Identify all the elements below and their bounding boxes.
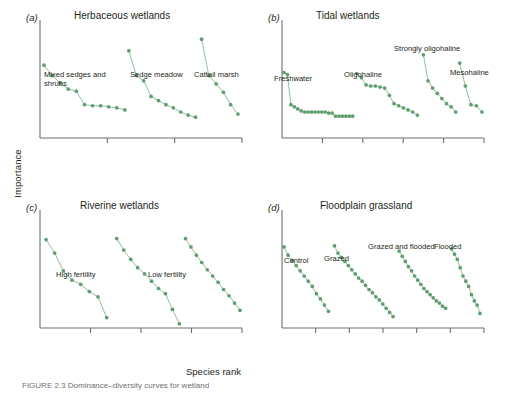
data-point bbox=[53, 251, 57, 255]
data-point bbox=[171, 106, 175, 110]
data-point bbox=[454, 110, 458, 114]
data-point bbox=[99, 104, 103, 108]
series-label: Sedge meadow bbox=[130, 70, 183, 79]
data-point bbox=[360, 279, 364, 283]
data-point bbox=[302, 274, 306, 278]
data-point bbox=[186, 113, 190, 117]
series-label: Cattail marsh bbox=[194, 70, 239, 79]
data-point bbox=[79, 282, 83, 286]
data-point bbox=[357, 276, 361, 280]
data-point bbox=[400, 254, 404, 258]
data-point bbox=[44, 238, 48, 242]
data-point bbox=[441, 304, 445, 308]
data-point bbox=[233, 301, 237, 305]
series-line bbox=[399, 251, 445, 308]
panel-tag: (b) bbox=[268, 12, 280, 23]
data-point bbox=[136, 266, 140, 270]
data-point bbox=[416, 278, 420, 282]
series-line bbox=[423, 55, 455, 112]
data-point bbox=[296, 107, 300, 111]
data-point bbox=[347, 114, 351, 118]
data-point bbox=[341, 114, 345, 118]
data-point bbox=[222, 90, 226, 94]
data-point bbox=[461, 274, 465, 278]
data-point bbox=[107, 105, 111, 109]
data-point bbox=[178, 322, 182, 326]
data-point bbox=[475, 303, 479, 307]
data-point bbox=[299, 109, 303, 113]
panel-tag: (a) bbox=[26, 12, 38, 23]
data-point bbox=[236, 112, 240, 116]
data-point bbox=[306, 110, 310, 114]
data-point bbox=[88, 290, 92, 294]
data-point bbox=[449, 105, 453, 109]
data-point bbox=[122, 248, 126, 252]
data-point bbox=[371, 291, 375, 295]
data-point bbox=[406, 108, 410, 112]
data-point bbox=[303, 110, 307, 114]
data-point bbox=[157, 287, 161, 291]
data-point bbox=[367, 288, 371, 292]
data-point bbox=[458, 266, 462, 270]
data-point bbox=[115, 106, 119, 110]
data-point bbox=[123, 108, 127, 112]
data-point bbox=[434, 299, 438, 303]
data-point bbox=[350, 268, 354, 272]
data-point bbox=[351, 114, 355, 118]
data-point bbox=[75, 89, 79, 93]
data-point bbox=[323, 303, 327, 307]
data-point bbox=[364, 284, 368, 288]
data-point bbox=[458, 61, 462, 65]
series-label: High fertility bbox=[56, 270, 96, 279]
data-point bbox=[115, 237, 119, 241]
data-point bbox=[388, 94, 392, 98]
data-point bbox=[402, 106, 406, 110]
series-label: Mixed sedges andshrubs bbox=[44, 70, 106, 88]
data-point bbox=[289, 103, 293, 107]
data-point bbox=[292, 105, 296, 109]
data-point bbox=[428, 293, 432, 297]
data-point bbox=[422, 53, 426, 57]
data-point bbox=[164, 292, 168, 296]
series-label: Low fertility bbox=[148, 270, 186, 279]
data-point bbox=[463, 84, 467, 88]
y-axis-label: Importance bbox=[12, 119, 23, 229]
series-label: Strongly oligohaline bbox=[394, 44, 460, 53]
data-series bbox=[184, 237, 242, 312]
data-point bbox=[377, 298, 381, 302]
data-point bbox=[327, 111, 331, 115]
data-point bbox=[42, 63, 46, 67]
data-point bbox=[179, 110, 183, 114]
panel-b-tidal-wetlands: (b)Tidal wetlandsFreshwaterOligohalineSt… bbox=[268, 8, 490, 160]
data-point bbox=[200, 261, 204, 265]
data-point bbox=[143, 272, 147, 276]
data-point bbox=[353, 272, 357, 276]
data-point bbox=[306, 279, 310, 283]
series-label: Grazed and flooded bbox=[368, 242, 435, 251]
series-line bbox=[129, 51, 196, 118]
data-point bbox=[96, 295, 100, 299]
data-point bbox=[392, 102, 396, 106]
data-point bbox=[411, 110, 415, 114]
data-point bbox=[388, 311, 392, 315]
data-point bbox=[105, 316, 109, 320]
data-point bbox=[171, 307, 175, 311]
data-point bbox=[214, 82, 218, 86]
data-point bbox=[378, 85, 382, 89]
data-point bbox=[150, 279, 154, 283]
x-axis-label: Species rank bbox=[186, 366, 241, 377]
data-point bbox=[374, 84, 378, 88]
data-point bbox=[222, 288, 226, 292]
data-point bbox=[344, 114, 348, 118]
data-point bbox=[415, 113, 419, 117]
data-point bbox=[149, 95, 153, 99]
data-point bbox=[205, 268, 209, 272]
data-point bbox=[310, 285, 314, 289]
data-point bbox=[127, 49, 131, 53]
data-point bbox=[200, 37, 204, 41]
data-point bbox=[330, 111, 334, 115]
data-point bbox=[157, 99, 161, 103]
data-point bbox=[381, 302, 385, 306]
panel-a-herbaceous-wetlands: (a)Herbaceous wetlandsMixed sedges andsh… bbox=[26, 8, 248, 160]
data-point bbox=[438, 301, 442, 305]
